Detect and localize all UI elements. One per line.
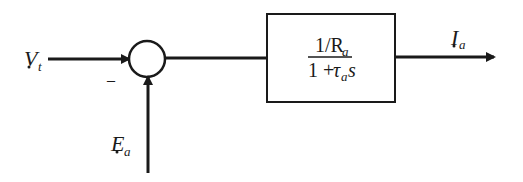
svg-text:t: t (38, 59, 42, 74)
output-label-ia: I a (450, 25, 466, 52)
svg-text:s: s (348, 59, 356, 81)
transfer-numerator: 1/R a (315, 34, 349, 59)
svg-text:1 +: 1 + (308, 59, 334, 81)
transfer-function-block (267, 14, 395, 102)
svg-text:1/R: 1/R (315, 34, 345, 56)
svg-text:a: a (124, 144, 131, 159)
minus-sign: – (106, 71, 116, 88)
svg-text:a: a (459, 37, 466, 52)
summing-junction (129, 41, 165, 77)
svg-text:τ: τ (333, 59, 341, 81)
input-label-ea: E a (110, 131, 131, 159)
block-diagram: V t – E a 1/R a 1 + τ a s I a (0, 0, 523, 182)
input-label-vt: V t (24, 46, 42, 74)
transfer-denominator: 1 + τ a s (308, 59, 356, 84)
svg-text:a: a (341, 69, 348, 84)
